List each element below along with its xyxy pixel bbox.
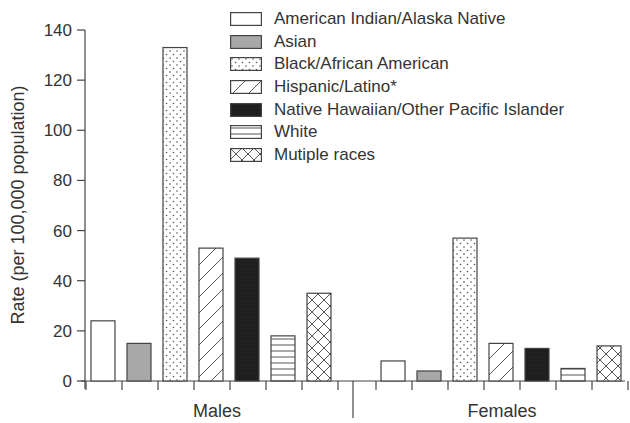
- legend-label: Black/African American: [274, 54, 449, 74]
- bar-males-5: [271, 336, 295, 381]
- x-category-label: Females: [467, 401, 536, 421]
- legend-swatch-icon: [230, 12, 262, 26]
- y-tick-label: 140: [44, 21, 72, 40]
- legend-item: American Indian/Alaska Native: [230, 8, 564, 31]
- legend-label: White: [274, 122, 317, 142]
- bar-males-3: [199, 248, 223, 381]
- bar-males-0: [91, 321, 115, 381]
- y-axis-label: Rate (per 100,000 population): [8, 85, 28, 324]
- y-tick-label: 0: [63, 372, 72, 391]
- legend-swatch-icon: [230, 57, 262, 71]
- legend-label: Native Hawaiian/Other Pacific Islander: [274, 100, 564, 120]
- bar-males-1: [127, 343, 151, 381]
- y-tick-label: 40: [53, 272, 72, 291]
- bar-females-6: [597, 346, 621, 381]
- y-tick-label: 20: [53, 322, 72, 341]
- legend-item: Hispanic/Latino*: [230, 76, 564, 99]
- bar-females-3: [489, 343, 513, 381]
- legend-item: Black/African American: [230, 53, 564, 76]
- legend-swatch-icon: [230, 148, 262, 162]
- y-tick-label: 60: [53, 222, 72, 241]
- legend-swatch-icon: [230, 35, 262, 49]
- bar-females-2: [453, 238, 477, 381]
- bar-females-0: [381, 361, 405, 381]
- legend-swatch-icon: [230, 125, 262, 139]
- legend-label: Mutiple races: [274, 145, 375, 165]
- x-category-label: Males: [193, 401, 241, 421]
- legend-label: Asian: [274, 32, 317, 52]
- bar-males-2: [163, 48, 187, 381]
- legend-swatch-icon: [230, 80, 262, 94]
- y-tick-label: 100: [44, 121, 72, 140]
- legend-item: Asian: [230, 31, 564, 54]
- bar-females-5: [561, 368, 585, 381]
- bar-males-6: [307, 293, 331, 381]
- bar-females-1: [417, 371, 441, 381]
- legend-swatch-icon: [230, 103, 262, 117]
- legend-label: American Indian/Alaska Native: [274, 9, 506, 29]
- bar-males-4: [235, 258, 259, 381]
- legend-item: White: [230, 121, 564, 144]
- bar-females-4: [525, 348, 549, 381]
- y-tick-label: 120: [44, 71, 72, 90]
- legend: American Indian/Alaska NativeAsianBlack/…: [230, 8, 564, 166]
- legend-item: Mutiple races: [230, 144, 564, 167]
- legend-label: Hispanic/Latino*: [274, 77, 397, 97]
- y-tick-label: 80: [53, 171, 72, 190]
- legend-item: Native Hawaiian/Other Pacific Islander: [230, 98, 564, 121]
